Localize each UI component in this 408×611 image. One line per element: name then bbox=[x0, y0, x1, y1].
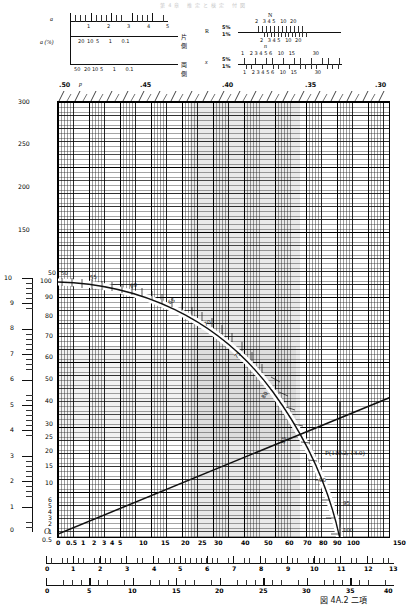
left-log-60: 60 bbox=[45, 353, 53, 360]
nomogram-right-x-ticklabels-top: 1 2 3 4 5 6 10 15 30 bbox=[241, 50, 319, 56]
tick-4: 4 bbox=[261, 69, 264, 75]
left-ruler-8: 8 bbox=[10, 324, 14, 331]
bottom-ruler-1-6: 6 bbox=[205, 565, 209, 572]
left-axis-upper-300: 300 bbox=[18, 98, 30, 105]
bottom-log-30: 30 bbox=[214, 539, 223, 546]
bottom-ruler-1-13: 13 bbox=[389, 565, 398, 572]
top-axis-label-35: .35 bbox=[305, 81, 316, 89]
tick-5: 5 bbox=[272, 18, 275, 24]
bottom-log-80: 80 bbox=[319, 539, 328, 546]
bottom-ruler-2-25: 25 bbox=[259, 587, 268, 594]
chart-top-axis: .50 p .45 .40 .35 .30 bbox=[57, 86, 390, 101]
nomogram-left-axis-a-tick-1: 1 bbox=[87, 23, 90, 29]
bottom-ruler-2-major-ticks bbox=[46, 578, 394, 586]
tick-5: 5 bbox=[266, 69, 269, 75]
left-log-50: 50 bbox=[45, 375, 53, 382]
left-axis-upper-150: 150 bbox=[18, 226, 30, 233]
tick-1: 1 bbox=[113, 66, 116, 72]
bottom-ruler-2-0: 0 bbox=[45, 587, 49, 594]
bottom-ruler-1-4: 4 bbox=[152, 565, 156, 572]
bottom-ruler-1-major-ticks bbox=[46, 556, 394, 564]
left-ruler-2: 2 bbox=[10, 477, 14, 484]
nomogram-right-R-top-pct: 5% bbox=[222, 24, 231, 30]
arc-curve-ticks bbox=[62, 278, 340, 534]
bottom-log-20: 20 bbox=[181, 539, 190, 546]
bottom-log-50: 50 bbox=[264, 539, 273, 546]
tick-10: 10 bbox=[278, 50, 284, 56]
left-ruler-0: 0 bbox=[10, 526, 14, 533]
nomogram-left-axis-a-label: a bbox=[50, 16, 53, 22]
nomogram-right-x-title: n bbox=[264, 43, 267, 49]
left-ruler-6: 6 bbox=[10, 375, 14, 382]
left-axis-upper: 300 250 200 150 bbox=[18, 98, 58, 288]
tick-20: 20 bbox=[84, 66, 90, 72]
left-ruler-10: 10 bbox=[4, 274, 12, 281]
nomogram-left-axis-a-tick-3: 3 bbox=[127, 23, 130, 29]
tick-30: 30 bbox=[313, 50, 319, 56]
bottom-ruler-1-0: 0 bbox=[45, 565, 49, 572]
top-axis-label-40: .40 bbox=[222, 81, 233, 89]
bottom-ruler-1-1: 1 bbox=[71, 565, 75, 572]
nomogram-left-one-sided-label: 片側 bbox=[181, 32, 188, 50]
tick-15: 15 bbox=[289, 50, 295, 56]
bottom-log-90: 90 bbox=[333, 539, 342, 546]
top-axis-p-symbol: p bbox=[79, 81, 82, 87]
bottom-ruler-1-2: 2 bbox=[98, 565, 102, 572]
nomogram-left-axis-a-majorticks bbox=[70, 13, 168, 22]
tick-1: 1 bbox=[243, 69, 246, 75]
left-log-40: 40 bbox=[45, 397, 53, 404]
left-axis-upper-250: 250 bbox=[18, 140, 30, 147]
nomogram-left-two-sided-label: 両側 bbox=[181, 60, 188, 78]
left-log-20: 20 bbox=[45, 447, 53, 454]
tick-4: 4 bbox=[273, 37, 276, 43]
annotation-point-p: P(110.2, 13.0) bbox=[325, 449, 365, 457]
curve-label-55: 55 bbox=[90, 274, 98, 281]
tick-20: 20 bbox=[290, 18, 296, 24]
tick-5: 5 bbox=[277, 37, 280, 43]
bottom-ruler-2-15: 15 bbox=[172, 587, 181, 594]
nomogram-left-one-sided-rule bbox=[70, 36, 178, 37]
left-log-2: 2 bbox=[48, 520, 52, 527]
bottom-log-4: 4 bbox=[110, 539, 114, 546]
tick-3: 3 bbox=[255, 50, 258, 56]
left-log-70: 70 bbox=[45, 332, 53, 339]
tick-0p1: 0.1 bbox=[122, 38, 130, 44]
left-log-30: 30 bbox=[45, 420, 53, 427]
curve-label-100: 100 bbox=[343, 527, 353, 533]
tick-50: 50 bbox=[74, 66, 80, 72]
nomogram-right-x-bottom-pct: 1% bbox=[222, 63, 231, 69]
origin-marker: O bbox=[44, 527, 50, 536]
bottom-ruler-2-20: 20 bbox=[215, 587, 224, 594]
tick-20: 20 bbox=[295, 37, 301, 43]
bottom-log-5: 5 bbox=[118, 539, 122, 546]
bottom-ruler-1-12: 12 bbox=[364, 565, 373, 572]
bottom-log-2: 2 bbox=[92, 539, 96, 546]
nomogram-right-R-bottom-pct: 1% bbox=[222, 31, 231, 37]
bottom-log-60: 60 bbox=[285, 539, 294, 546]
tick-1: 1 bbox=[241, 50, 244, 56]
bottom-log-3: 3 bbox=[102, 539, 106, 546]
nomogram-left-vertical-rule bbox=[70, 21, 71, 65]
left-log-25: 25 bbox=[45, 433, 53, 440]
bottom-log-100: 100 bbox=[347, 539, 360, 546]
nomogram-left-axis-a-tick-2: 2 bbox=[107, 23, 110, 29]
curve-label-90: 90 bbox=[319, 477, 326, 483]
chart-series-layer bbox=[58, 102, 390, 538]
bottom-ruler-2-10: 10 bbox=[128, 587, 137, 594]
tick-10: 10 bbox=[285, 37, 291, 43]
tick-10: 10 bbox=[92, 66, 98, 72]
tick-5: 5 bbox=[96, 38, 99, 44]
tick-1: 1 bbox=[109, 38, 112, 44]
nomogram-right-R-name: R bbox=[205, 28, 209, 34]
tick-2: 2 bbox=[252, 69, 255, 75]
top-axis-label-50: .50 bbox=[59, 81, 70, 89]
bottom-ruler-2-35: 35 bbox=[346, 587, 355, 594]
chart-plot-area[interactable]: 50 55 60 65 70 75 80 85 90 95 100 bbox=[57, 101, 390, 538]
tick-6: 6 bbox=[269, 50, 272, 56]
bottom-ruler-1-7: 7 bbox=[232, 565, 236, 572]
left-ruler-1: 1 bbox=[10, 503, 14, 510]
bottom-log-25: 25 bbox=[198, 539, 207, 546]
tick-10: 10 bbox=[280, 18, 286, 24]
nomogram-left: a 1 2 3 4 5 a (%) 20 10 5 1 0.1 片側 50 20… bbox=[48, 12, 188, 76]
nomogram-right: N R 5% 1% 2 3 4 5 10 20 2 3 4 5 10 20 n … bbox=[200, 12, 360, 78]
